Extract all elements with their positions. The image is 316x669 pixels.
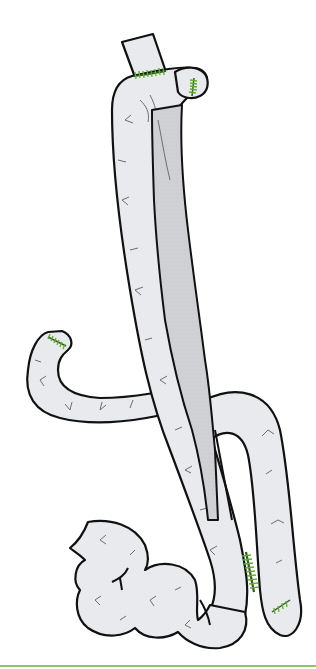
bowel-reconstruction-diagram: Anatomical illustration of surgically re…	[0, 0, 316, 669]
blind-end-top	[175, 68, 208, 98]
bottom-rule-divider	[0, 665, 316, 667]
